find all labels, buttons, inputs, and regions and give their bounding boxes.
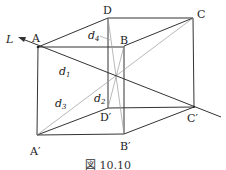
cube-diagram: L A D C B A′ B′ C′ D′ d1 d4 d2 d3 図 10.1… (0, 0, 226, 170)
edge-Aprime-Dprime (37, 108, 108, 135)
label-Cprime: C′ (187, 112, 198, 125)
label-d4: d4 (88, 29, 100, 43)
edge-C-B (124, 18, 193, 46)
edge-Aprime-Bprime (37, 134, 124, 135)
label-A: A (31, 32, 41, 45)
line-L-segment (20, 38, 221, 117)
arrow-icon (18, 37, 26, 42)
label-Dprime: D′ (100, 111, 112, 124)
label-Aprime: A′ (29, 145, 41, 158)
label-d3: d3 (55, 97, 67, 111)
label-B: B (120, 34, 128, 47)
label-d2: d2 (94, 92, 106, 106)
edge-Dprime-Cprime (108, 107, 194, 108)
point-Cprime (193, 106, 195, 108)
line-L (18, 37, 221, 117)
label-C: C (197, 8, 205, 21)
label-L: L (5, 33, 13, 46)
edge-A-Aprime (37, 47, 38, 135)
point-A (37, 46, 40, 49)
figure-caption: 図 10.10 (85, 159, 131, 170)
label-D: D (103, 4, 112, 17)
label-d1: d1 (59, 65, 71, 79)
diagonal-B-Dprime (108, 46, 124, 108)
edge-C-Cprime (193, 18, 194, 107)
edge-Bprime-Cprime (124, 107, 194, 134)
label-Bprime: B′ (120, 140, 131, 153)
